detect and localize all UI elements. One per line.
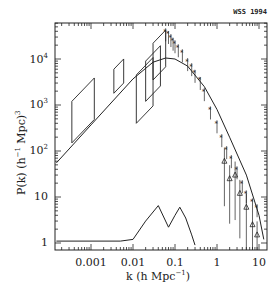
y-tick-label: 1 <box>14 236 48 249</box>
star-marker: * <box>229 155 233 163</box>
star-marker: * <box>215 120 219 128</box>
star-marker: * <box>224 146 228 154</box>
x-tick-label: 0.001 <box>71 256 111 269</box>
star-marker: * <box>208 106 212 114</box>
star-marker: * <box>180 49 184 57</box>
star-marker: * <box>193 69 197 77</box>
y-tick-label: 103 <box>14 97 48 111</box>
star-marker: * <box>240 180 244 188</box>
star-marker: * <box>198 76 202 84</box>
x-tick-label: 0.1 <box>155 256 195 269</box>
star-marker: * <box>244 190 248 198</box>
constraint-box <box>136 58 153 124</box>
curve-line <box>56 206 195 246</box>
constraint-box <box>114 59 124 93</box>
annotation-label: WSS 1994 <box>233 8 267 16</box>
y-axis-label: P(k) (h−1 Mpc)3 <box>14 110 28 195</box>
star-marker: * <box>250 198 254 206</box>
star-marker: * <box>202 88 206 96</box>
x-tick-label: 10 <box>239 256 279 269</box>
x-tick-label: 1 <box>197 256 237 269</box>
star-marker: * <box>219 134 223 142</box>
x-axis-label: k (h Mpc−1) <box>126 269 190 283</box>
constraint-box <box>153 30 166 80</box>
star-marker: * <box>255 204 259 212</box>
x-tick-label: 0.01 <box>113 256 153 269</box>
y-tick-label: 104 <box>14 52 48 66</box>
